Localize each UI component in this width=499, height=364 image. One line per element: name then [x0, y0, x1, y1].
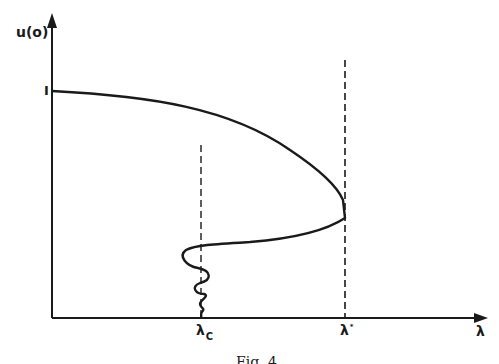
- lambda-star-symbol: λ: [340, 322, 349, 338]
- y-tick-label: I: [44, 84, 49, 97]
- x-axis-label: λ: [476, 324, 485, 338]
- lambda-c-symbol: λ: [196, 322, 205, 338]
- y-axis-arrow-icon: [47, 13, 57, 28]
- bifurcation-diagram: [0, 0, 499, 364]
- lambda-star-superscript: *: [350, 323, 354, 331]
- x-axis-arrow-icon: [474, 313, 488, 323]
- solution-curve: [52, 91, 345, 318]
- lambda-c-label: λC: [196, 323, 212, 337]
- figure-caption: Fig. 4: [236, 355, 277, 364]
- lambda-star-label: λ*: [340, 323, 353, 337]
- lambda-c-subscript: C: [206, 331, 213, 342]
- y-axis-label: u(o): [16, 25, 48, 39]
